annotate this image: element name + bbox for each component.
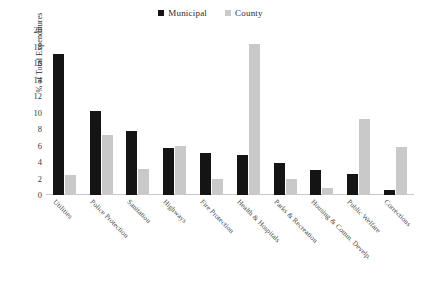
bar-group [83,30,120,195]
y-tick-label: 12 [34,91,43,101]
y-tick-label: 0 [38,190,42,200]
square-marker-icon [225,10,231,16]
x-axis-label: Utilities [51,198,74,221]
bar-county[interactable] [249,44,260,195]
bar-group [120,30,157,195]
bar-municipal[interactable] [310,170,321,195]
x-axis-category-labels: UtilitiesPolice ProtectionSanitationHigh… [46,198,414,278]
x-axis-label: Public Welfare [346,198,383,235]
y-tick-label: 16 [34,58,43,68]
bar-municipal[interactable] [90,111,101,195]
bar-municipal[interactable] [347,174,358,195]
bar-municipal[interactable] [200,153,211,195]
bar-county[interactable] [102,135,113,195]
x-axis-label: Housing & Comm. Develp. [309,198,372,261]
bar-group [377,30,414,195]
bar-municipal[interactable] [53,54,64,195]
bar-county[interactable] [396,147,407,195]
bar-county[interactable] [65,175,76,195]
bar-chart: MunicipalCounty % of Total Expenditures … [0,0,421,283]
bar-group [267,30,304,195]
y-tick-label: 4 [38,157,42,167]
legend-item-municipal[interactable]: Municipal [158,8,207,18]
bar-municipal[interactable] [384,190,395,195]
bar-group [230,30,267,195]
x-axis-label: Highways [162,198,189,225]
x-axis-label: Police Protection [88,198,130,240]
chart-legend: MunicipalCounty [0,8,421,18]
legend-item-label: Municipal [168,8,207,18]
bar-county[interactable] [359,119,370,195]
y-tick-label: 6 [38,141,42,151]
square-marker-icon [158,10,164,16]
bar-municipal[interactable] [237,155,248,195]
y-tick-label: 2 [38,174,42,184]
bar-county[interactable] [212,179,223,196]
y-tick-label: 14 [34,75,43,85]
x-axis-label: Corrections [383,198,413,228]
plot-area [46,30,414,195]
y-tick-label: 20 [34,25,43,35]
bar-group [156,30,193,195]
x-axis-label: Fire Protection [199,198,236,235]
bar-county[interactable] [138,169,149,195]
bar-group [193,30,230,195]
bar-municipal[interactable] [274,163,285,195]
x-axis-label: Sanitation [125,198,152,225]
bar-group [304,30,341,195]
bar-group [46,30,83,195]
y-tick-label: 10 [34,108,43,118]
bar-county[interactable] [322,188,333,195]
bar-county[interactable] [286,179,297,195]
bar-group [340,30,377,195]
bar-municipal[interactable] [163,148,174,195]
legend-item-county[interactable]: County [225,8,263,18]
y-tick-label: 8 [38,124,42,134]
bar-county[interactable] [175,146,186,196]
legend-item-label: County [235,8,263,18]
bar-municipal[interactable] [126,131,137,195]
y-tick-label: 18 [34,42,43,52]
